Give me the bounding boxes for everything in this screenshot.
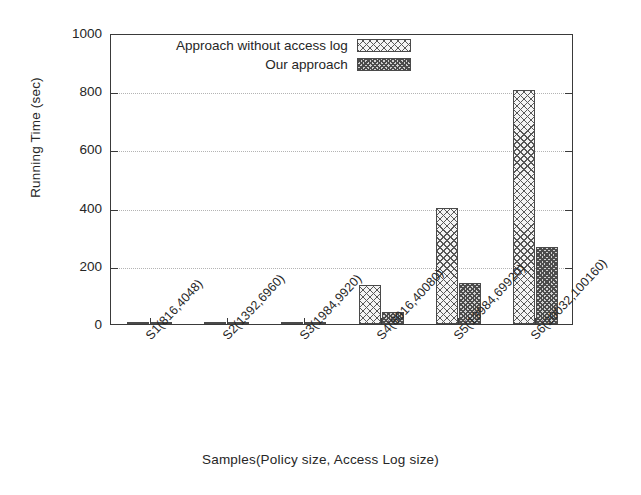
gridline — [111, 151, 572, 152]
y-axis-tick — [565, 93, 572, 94]
bar — [359, 285, 381, 324]
gridline — [111, 210, 572, 211]
y-axis-tick-label: 1000 — [30, 26, 102, 41]
bar — [204, 322, 226, 324]
bar-chart-figure: Running Time (sec) Samples(Policy size, … — [0, 0, 641, 495]
bar — [513, 90, 535, 324]
gridline — [111, 93, 572, 94]
y-axis-tick — [111, 93, 118, 94]
y-axis-tick-label: 600 — [30, 142, 102, 157]
bar — [436, 208, 458, 324]
y-axis-tick-label: 400 — [30, 201, 102, 216]
y-axis-tick — [111, 210, 118, 211]
y-axis-tick — [565, 151, 572, 152]
y-axis-tick-label: 200 — [30, 259, 102, 274]
y-axis-tick — [565, 268, 572, 269]
y-axis-tick — [565, 210, 572, 211]
legend-swatch-icon — [357, 39, 411, 52]
legend-entry: Approach without access log — [176, 38, 411, 53]
y-axis-tick-label: 0 — [30, 317, 102, 332]
legend-label: Our approach — [265, 57, 348, 72]
legend-label: Approach without access log — [176, 38, 348, 53]
legend-swatch-icon — [357, 58, 411, 71]
legend-entry: Our approach — [176, 57, 411, 72]
y-axis-tick — [111, 268, 118, 269]
y-axis-tick — [111, 151, 118, 152]
x-axis-title: Samples(Policy size, Access Log size) — [0, 452, 641, 467]
y-axis-tick-label: 800 — [30, 84, 102, 99]
bar — [281, 322, 303, 324]
bar — [127, 322, 149, 324]
chart-legend: Approach without access log Our approach — [176, 38, 411, 72]
gridline — [111, 268, 572, 269]
